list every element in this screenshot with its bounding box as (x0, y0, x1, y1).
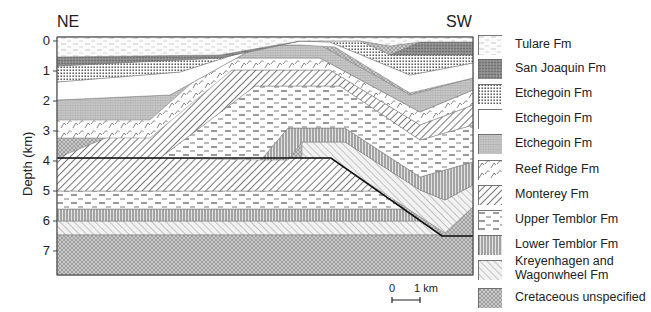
legend-label-text: San Joaquin Fm (515, 61, 606, 75)
legend-swatch-icon (478, 185, 502, 205)
legend-label-text: Wagonwheel Fm (515, 268, 608, 282)
ne-direction-label: NE (57, 13, 79, 31)
legend-item: San Joaquin Fm (478, 59, 651, 83)
legend-label-text: Lower Temblor Fm (515, 237, 618, 251)
layer-kreyenhagen-footwall (57, 221, 473, 235)
legend-swatch-icon (478, 84, 502, 104)
legend-label: Cretaceous unspecified (515, 290, 646, 304)
depth-tick-label: 3 (36, 123, 50, 138)
legend-item: Etchegoin Fm (478, 84, 651, 108)
legend-label: Etchegoin Fm (515, 86, 592, 100)
sw-direction-label: SW (446, 13, 472, 31)
legend-swatch-icon (478, 235, 502, 255)
legend-label: Lower Temblor Fm (515, 237, 618, 251)
legend-item: Kreyenhagen andWagonwheel Fm (478, 260, 651, 284)
legend-swatch-icon (478, 134, 502, 154)
legend-item: Cretaceous unspecified (478, 288, 651, 312)
legend-swatch-icon (478, 260, 502, 280)
legend-swatch-icon (478, 109, 502, 129)
depth-tick-label: 7 (36, 243, 50, 258)
legend-label-text: Etchegoin Fm (515, 86, 592, 100)
legend-label: Upper Temblor Fm (515, 212, 618, 226)
legend-item: Reef Ridge Fm (478, 160, 651, 184)
legend-label-text: Kreyenhagen and (515, 254, 614, 268)
legend-label: Monterey Fm (515, 187, 589, 201)
legend-label-text: Etchegoin Fm (515, 111, 592, 125)
legend-item: Tulare Fm (478, 35, 651, 59)
layer-cretaceous-base (57, 235, 473, 275)
scale-bar (392, 297, 420, 303)
layer-lower-temblor-footwall (57, 209, 456, 221)
scale-bar-start-label: 0 (389, 282, 395, 294)
geologic-cross-section: NE SW 01234567 Depth (km) 0 1 km Tulare … (0, 0, 651, 312)
legend-item: Upper Temblor Fm (478, 210, 651, 234)
legend-swatch-icon (478, 160, 502, 180)
legend-label-text: Etchegoin Fm (515, 136, 592, 150)
legend: Tulare FmSan Joaquin FmEtchegoin FmEtche… (478, 0, 651, 312)
depth-tick-label: 1 (36, 63, 50, 78)
depth-axis-title: Depth (km) (20, 132, 35, 196)
depth-tick-label: 4 (36, 153, 50, 168)
depth-tick-label: 6 (36, 213, 50, 228)
legend-label: Kreyenhagen andWagonwheel Fm (515, 254, 614, 282)
legend-item: Etchegoin Fm (478, 134, 651, 158)
legend-label: Reef Ridge Fm (515, 162, 599, 176)
legend-swatch-icon (478, 59, 502, 79)
legend-swatch-icon (478, 210, 502, 230)
legend-label-text: Tulare Fm (515, 37, 572, 51)
legend-label-text: Upper Temblor Fm (515, 212, 618, 226)
legend-item: Monterey Fm (478, 185, 651, 209)
legend-swatch-icon (478, 288, 502, 308)
legend-label-text: Cretaceous unspecified (515, 290, 646, 304)
layer-upper-temblor-footwall (57, 191, 432, 209)
scale-bar-end-label: 1 km (414, 282, 438, 294)
legend-label: Etchegoin Fm (515, 136, 592, 150)
depth-tick-label: 0 (36, 33, 50, 48)
legend-item: Etchegoin Fm (478, 109, 651, 133)
legend-label: Tulare Fm (515, 37, 572, 51)
legend-label: San Joaquin Fm (515, 61, 606, 75)
legend-label: Etchegoin Fm (515, 111, 592, 125)
legend-label-text: Reef Ridge Fm (515, 162, 599, 176)
depth-tick-label: 5 (36, 183, 50, 198)
legend-swatch-icon (478, 35, 502, 55)
depth-tick-label: 2 (36, 93, 50, 108)
legend-label-text: Monterey Fm (515, 187, 589, 201)
